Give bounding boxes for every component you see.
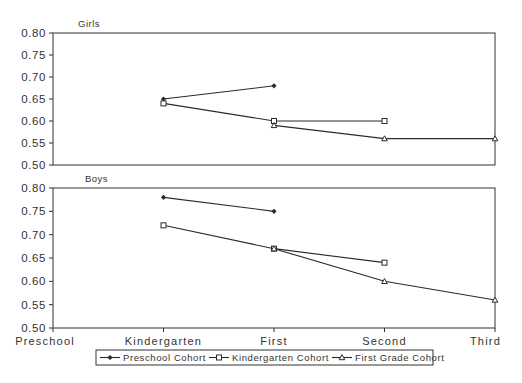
- panel-title: Boys: [85, 173, 108, 184]
- square-marker: [161, 101, 166, 106]
- y-tick-label: 0.60: [21, 115, 46, 127]
- y-tick-label: 0.75: [21, 205, 46, 217]
- legend-item-label: First Grade Cohort: [355, 352, 444, 363]
- y-tick-label: 0.80: [21, 27, 46, 39]
- y-tick-label: 0.70: [21, 71, 46, 83]
- x-tick-label: First: [260, 335, 287, 347]
- series-line: [274, 249, 495, 300]
- y-tick-label: 0.70: [21, 229, 46, 241]
- y-tick-label: 0.65: [21, 93, 46, 105]
- legend-item-label: Preschool Cohort: [123, 352, 206, 363]
- series-line: [164, 86, 275, 99]
- y-tick-label: 0.50: [21, 159, 46, 171]
- square-marker: [161, 223, 166, 228]
- series-line: [164, 197, 275, 211]
- x-axis-labels: PreschoolKindergartenFirstSecondThird: [15, 335, 501, 347]
- triangle-marker: [492, 297, 498, 302]
- diamond-marker: [161, 195, 166, 200]
- triangle-marker: [382, 279, 388, 284]
- boys-panel: Boys0.800.750.700.650.600.550.50: [21, 173, 498, 334]
- diamond-marker: [271, 83, 276, 88]
- y-tick-label: 0.55: [21, 137, 46, 149]
- girls-panel: Girls0.800.750.700.650.600.550.50: [21, 18, 498, 171]
- y-tick-label: 0.80: [21, 182, 46, 194]
- x-tick-label: Kindergarten: [125, 335, 202, 347]
- x-tick-label: Second: [362, 335, 407, 347]
- series-line: [164, 225, 385, 262]
- legend: Preschool CohortKindergarten CohortFirst…: [96, 350, 444, 365]
- square-marker: [382, 119, 387, 124]
- triangle-marker: [382, 136, 388, 141]
- square-marker: [217, 355, 222, 360]
- square-marker: [382, 260, 387, 265]
- y-tick-label: 0.65: [21, 252, 46, 264]
- y-tick-label: 0.60: [21, 275, 46, 287]
- cohort-line-chart: Girls0.800.750.700.650.600.550.50 Boys0.…: [0, 0, 522, 383]
- x-tick-label: Third: [470, 335, 501, 347]
- y-tick-label: 0.75: [21, 49, 46, 61]
- legend-item-label: Kindergarten Cohort: [232, 352, 329, 363]
- y-tick-label: 0.55: [21, 299, 46, 311]
- diamond-marker: [271, 209, 276, 214]
- triangle-marker: [492, 136, 498, 141]
- plot-frame: [53, 33, 495, 165]
- y-tick-label: 0.50: [21, 322, 46, 334]
- x-tick-label: Preschool: [15, 335, 75, 347]
- panel-title: Girls: [78, 18, 100, 29]
